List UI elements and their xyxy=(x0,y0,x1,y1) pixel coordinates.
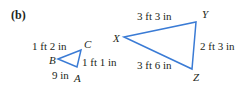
panel-label: (b) xyxy=(11,9,26,21)
side-yz-label: 2 ft 3 in xyxy=(200,40,235,52)
vertex-b-label: B xyxy=(49,54,56,66)
side-xy-label: 3 ft 3 in xyxy=(137,10,172,22)
side-ab-label: 9 in xyxy=(52,69,69,81)
vertex-x-label: X xyxy=(113,32,120,44)
side-bc-label: 1 ft 2 in xyxy=(32,40,67,52)
vertex-z-label: Z xyxy=(193,71,199,83)
vertex-c-label: C xyxy=(84,38,91,50)
side-xz-label: 3 ft 6 in xyxy=(137,59,172,71)
triangle-abc xyxy=(58,50,81,67)
figure-panel-b: (b) 1 ft 2 in C B 1 ft 1 in 9 in A 3 ft … xyxy=(0,0,245,86)
side-ca-label: 1 ft 1 in xyxy=(82,56,117,68)
vertex-y-label: Y xyxy=(202,8,208,20)
vertex-a-label: A xyxy=(74,72,81,84)
